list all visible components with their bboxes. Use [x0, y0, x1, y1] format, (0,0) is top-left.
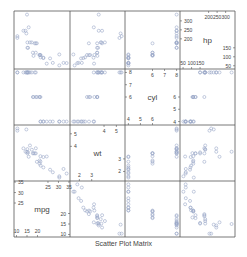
- data-point: [80, 199, 83, 202]
- tick-label: 8: [129, 69, 132, 75]
- data-point: [51, 171, 54, 174]
- data-point: [42, 166, 45, 169]
- tick-label: 25: [45, 184, 51, 190]
- tick-label: 20: [60, 211, 66, 217]
- data-point: [184, 197, 187, 200]
- tick-label: 5: [139, 116, 142, 122]
- data-point: [65, 62, 68, 65]
- tick-label: 150: [223, 45, 232, 51]
- data-point: [87, 42, 90, 45]
- diagonal-panel-cyl: cyl667788445566: [125, 69, 180, 125]
- data-point: [175, 218, 178, 221]
- data-point: [45, 120, 48, 123]
- tick-label: 3: [118, 156, 121, 162]
- data-point: [96, 42, 99, 45]
- data-point: [194, 217, 197, 220]
- data-point: [58, 120, 61, 123]
- data-point: [204, 218, 207, 221]
- data-point: [93, 209, 96, 212]
- panel-mpg-vs-wt: [72, 183, 123, 235]
- data-point: [230, 223, 233, 226]
- tick-label: 10: [60, 231, 66, 237]
- data-point: [127, 164, 130, 167]
- data-point: [22, 71, 25, 74]
- data-point: [184, 186, 187, 189]
- data-point: [151, 42, 154, 45]
- panel-cyl-vs-mpg: [16, 71, 68, 123]
- data-point: [212, 128, 215, 131]
- data-point: [101, 226, 104, 229]
- data-point: [45, 155, 48, 158]
- data-point: [184, 183, 187, 186]
- data-point: [31, 51, 34, 54]
- data-point: [184, 203, 187, 206]
- data-point: [22, 147, 25, 150]
- data-point: [203, 160, 206, 163]
- data-point: [93, 62, 96, 65]
- tick-label: 4: [103, 128, 106, 134]
- data-point: [127, 203, 130, 206]
- data-point: [192, 176, 195, 179]
- data-point: [93, 203, 96, 206]
- data-point: [28, 144, 31, 147]
- data-point: [26, 13, 29, 16]
- data-point: [16, 71, 19, 74]
- tick-label: 35: [18, 179, 24, 185]
- data-point: [92, 206, 95, 209]
- tick-label: 20: [35, 228, 41, 234]
- variable-label: mpg: [34, 205, 50, 214]
- panel-hp-vs-mpg: [16, 13, 68, 67]
- scatter-plot-matrix: hp2002002502503003005050100100150150cyl6…: [0, 0, 247, 257]
- panel-wt-vs-hp: [182, 127, 233, 179]
- data-point: [51, 61, 54, 64]
- data-point: [127, 190, 130, 193]
- data-point: [119, 223, 122, 226]
- tick-label: 4: [74, 143, 77, 149]
- tick-label: 25: [18, 200, 24, 206]
- tick-label: 200: [184, 36, 193, 42]
- data-point: [175, 46, 178, 49]
- data-point: [49, 57, 52, 60]
- panel-mpg-vs-hp: [182, 183, 233, 235]
- data-point: [230, 71, 233, 74]
- data-point: [73, 64, 76, 67]
- data-point: [215, 147, 218, 150]
- tick-label: 6: [129, 94, 132, 100]
- diagonal-panel-mpg: mpg252530303535101015152020: [14, 179, 72, 237]
- data-point: [127, 183, 130, 186]
- data-point: [184, 167, 187, 170]
- tick-label: 5: [74, 131, 77, 137]
- data-point: [80, 186, 83, 189]
- data-point: [175, 155, 178, 158]
- tick-label: 10: [14, 228, 20, 234]
- data-point: [27, 26, 30, 29]
- tick-label: 6: [151, 72, 154, 78]
- panel-cyl-vs-hp: [182, 71, 233, 123]
- data-point: [49, 168, 52, 171]
- data-point: [72, 53, 75, 56]
- data-point: [96, 51, 99, 54]
- data-point: [30, 41, 33, 44]
- data-point: [218, 71, 221, 74]
- tick-label: 250: [213, 14, 222, 20]
- tick-label: 6: [151, 116, 154, 122]
- tick-label: 2: [78, 172, 81, 178]
- data-point: [103, 220, 106, 223]
- panel-hp-vs-wt: [72, 13, 123, 67]
- data-point: [101, 29, 104, 32]
- tick-label: 300: [221, 14, 230, 20]
- data-point: [92, 71, 95, 74]
- tick-label: 15: [60, 221, 66, 227]
- data-point: [87, 120, 90, 123]
- data-point: [76, 183, 79, 186]
- data-point: [34, 51, 37, 54]
- diagonal-panel-wt: wt44552233: [70, 125, 125, 181]
- data-point: [101, 214, 104, 217]
- data-point: [32, 54, 35, 57]
- tick-label: 30: [56, 184, 62, 190]
- data-point: [58, 64, 61, 67]
- data-point: [190, 164, 193, 167]
- tick-label: 150: [196, 60, 205, 66]
- data-point: [80, 61, 83, 64]
- data-point: [191, 216, 194, 219]
